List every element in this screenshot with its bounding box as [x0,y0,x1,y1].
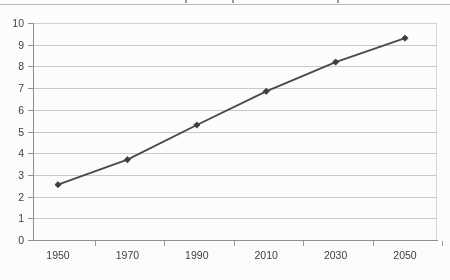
data-point-marker [402,35,408,41]
data-point-marker [55,182,61,188]
data-point-marker [194,122,200,128]
data-point-marker [263,88,269,94]
series-line [58,38,405,184]
data-point-marker [333,59,339,65]
data-point-marker [124,157,130,163]
data-series [0,0,450,280]
line-chart: 012345678910 195019701990201020302050 [0,0,450,280]
series-markers [55,35,408,188]
